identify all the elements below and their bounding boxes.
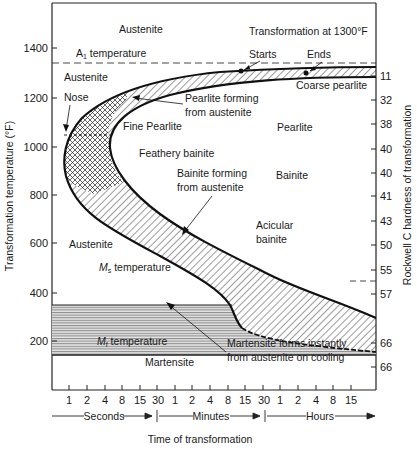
label-austenite-mid: Austenite bbox=[64, 71, 108, 83]
hrc-tick: 57 bbox=[380, 288, 392, 300]
ends-marker bbox=[304, 71, 309, 76]
x-tick: 15 bbox=[134, 394, 146, 406]
label-martensite-forms: Martensite forms instantly bbox=[227, 337, 347, 349]
y-tick-1400: 1400 bbox=[24, 42, 48, 54]
hrc-tick: 38 bbox=[380, 118, 392, 130]
hrc-tick: 50 bbox=[380, 239, 392, 251]
label-nose: Nose bbox=[64, 91, 89, 103]
y-axis: 1400 1200 1000 800 600 400 200 Transform… bbox=[3, 42, 57, 347]
bainite-forming-arrow bbox=[184, 196, 212, 232]
x-tick: 1 bbox=[172, 394, 178, 406]
label-bainite-forming-2: from austenite bbox=[177, 181, 244, 193]
ttt-diagram: Austenite A1 temperature Transformation … bbox=[0, 0, 417, 452]
seconds-label: Seconds bbox=[84, 410, 125, 422]
hrc-tick: 40 bbox=[380, 143, 392, 155]
label-pearlite-forming-2: from austenite bbox=[185, 106, 252, 118]
x-tick: 8 bbox=[119, 394, 125, 406]
x-tick: 2 bbox=[295, 394, 301, 406]
label-acicular-2: bainite bbox=[256, 233, 287, 245]
x-tick: 1 bbox=[66, 394, 72, 406]
hrc-tick: 66 bbox=[380, 337, 392, 349]
x-tick: 2 bbox=[189, 394, 195, 406]
starts-marker bbox=[239, 69, 244, 74]
x-tick: 8 bbox=[225, 394, 231, 406]
hrc-tick: 40 bbox=[380, 167, 392, 179]
x-axis: 1 2 4 8 15 30 1 2 4 8 15 30 1 2 4 8 15 bbox=[66, 385, 357, 406]
label-feathery-bainite: Feathery bainite bbox=[139, 147, 214, 159]
x-tick: 8 bbox=[330, 394, 336, 406]
label-starts: Starts bbox=[249, 48, 276, 60]
x-tick: 15 bbox=[345, 394, 357, 406]
y-tick-400: 400 bbox=[30, 287, 48, 299]
hrc-tick: 41 bbox=[380, 190, 392, 202]
minutes-label: Minutes bbox=[193, 410, 230, 422]
x-tick: 1 bbox=[277, 394, 283, 406]
x-tick: 2 bbox=[84, 394, 90, 406]
y-tick-1200: 1200 bbox=[24, 92, 48, 104]
label-ms-temperature: Ms temperature bbox=[99, 261, 171, 274]
y-tick-800: 800 bbox=[30, 189, 48, 201]
label-pearlite: Pearlite bbox=[277, 121, 313, 133]
label-martensite: Martensite bbox=[145, 356, 194, 368]
hardness-axis-title: Rockwell C hardness of transformation bbox=[401, 105, 413, 285]
label-mf-temperature: Mf temperature bbox=[97, 335, 167, 348]
hours-label: Hours bbox=[306, 410, 334, 422]
x-axis-title: Time of transformation bbox=[148, 433, 253, 445]
hrc-tick: 55 bbox=[380, 264, 392, 276]
y-tick-200: 200 bbox=[30, 335, 48, 347]
y-tick-1000: 1000 bbox=[24, 141, 48, 153]
x-tick: 4 bbox=[102, 394, 108, 406]
label-coarse-pearlite: Coarse pearlite bbox=[296, 79, 367, 91]
label-austenite-low: Austenite bbox=[69, 238, 113, 250]
label-fine-pearlite: Fine Pearlite bbox=[123, 120, 182, 132]
label-martensite-forms-2: from austenite on cooling bbox=[227, 351, 344, 363]
x-tick: 30 bbox=[152, 394, 164, 406]
label-transformation-at: Transformation at 1300°F bbox=[249, 25, 368, 37]
hardness-axis: 11 32 38 40 40 41 43 50 55 57 66 66 Rock… bbox=[371, 70, 413, 373]
x-tick: 30 bbox=[258, 394, 270, 406]
label-austenite-top: Austenite bbox=[119, 23, 163, 35]
label-pearlite-forming: Pearlite forming bbox=[185, 92, 259, 104]
hrc-tick: 66 bbox=[380, 361, 392, 373]
x-tick: 4 bbox=[313, 394, 319, 406]
y-axis-title: Transformation temperature (°F) bbox=[3, 121, 15, 271]
label-acicular: Acicular bbox=[256, 219, 294, 231]
hrc-tick: 43 bbox=[380, 215, 392, 227]
label-ends: Ends bbox=[307, 48, 331, 60]
x-tick: 4 bbox=[207, 394, 213, 406]
y-tick-600: 600 bbox=[30, 237, 48, 249]
label-bainite-forming: Bainite forming bbox=[177, 167, 247, 179]
label-a1-temperature: A1 temperature bbox=[76, 47, 147, 60]
x-tick: 15 bbox=[239, 394, 251, 406]
hrc-tick: 11 bbox=[380, 70, 391, 82]
hrc-tick: 32 bbox=[380, 94, 392, 106]
label-bainite: Bainite bbox=[276, 169, 308, 181]
